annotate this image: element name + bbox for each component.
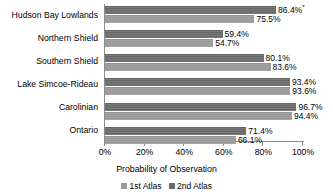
category-axis-labels: Hudson Bay LowlandsNorthern ShieldSouthe… xyxy=(0,4,101,141)
value-annotation: * xyxy=(302,3,304,9)
legend-swatch-icon xyxy=(121,183,127,189)
bar-row: 75.5% xyxy=(105,15,303,23)
bar-value-label: 66.1% xyxy=(236,136,262,145)
tick-label: 0% xyxy=(99,147,112,158)
tick-label: 80% xyxy=(255,147,272,158)
category-label: Ontario xyxy=(0,118,101,141)
bar-row: 71.4% xyxy=(105,127,303,135)
bar-row: 59.4% xyxy=(105,30,303,38)
bar[interactable] xyxy=(105,78,290,86)
bar[interactable] xyxy=(105,136,236,144)
bar[interactable] xyxy=(105,6,276,14)
category-label: Northern Shield xyxy=(0,27,101,50)
axis-title: Probability of Observation xyxy=(0,164,333,175)
bar-row: 93.6% xyxy=(105,87,303,95)
category-label: Hudson Bay Lowlands xyxy=(0,4,101,27)
plot-area: Hudson Bay LowlandsNorthern ShieldSouthe… xyxy=(0,0,333,148)
bar[interactable] xyxy=(105,103,296,111)
bar[interactable] xyxy=(105,112,292,120)
bar-group: 96.7%94.4% xyxy=(105,103,303,126)
chart-legend: 1st Atlas2nd Atlas xyxy=(0,181,333,191)
category-label: Lake Simcoe-Rideau xyxy=(0,72,101,95)
bar-chart: Hudson Bay LowlandsNorthern ShieldSouthe… xyxy=(0,0,333,196)
category-label: Carolinian xyxy=(0,95,101,118)
legend-swatch-icon xyxy=(169,183,175,189)
legend-label: 1st Atlas xyxy=(129,181,161,191)
bar[interactable] xyxy=(105,54,264,62)
bar-value-label: 83.6% xyxy=(271,63,297,72)
bar[interactable] xyxy=(105,15,254,23)
bar-group: 80.1%83.6% xyxy=(105,54,303,77)
bar-value-label: 75.5% xyxy=(254,14,280,23)
bar-value-label: 93.6% xyxy=(290,87,316,96)
tick-label: 40% xyxy=(175,147,192,158)
bar-row: 93.4% xyxy=(105,78,303,86)
bar[interactable] xyxy=(105,39,213,47)
bar-row: 54.7% xyxy=(105,39,303,47)
bar-group: 59.4%54.7% xyxy=(105,30,303,53)
tick-label: 20% xyxy=(136,147,153,158)
legend-entry[interactable]: 2nd Atlas xyxy=(169,181,212,191)
bar-row: 96.7% xyxy=(105,103,303,111)
bar[interactable] xyxy=(105,63,271,71)
bar[interactable] xyxy=(105,127,246,135)
bar-group: 93.4%93.6% xyxy=(105,78,303,101)
bar-row: 66.1% xyxy=(105,136,303,144)
bar-value-label: 54.7% xyxy=(213,38,239,47)
legend-label: 2nd Atlas xyxy=(177,181,212,191)
tick-label: 60% xyxy=(215,147,232,158)
bar-group: 86.4%*75.5% xyxy=(105,6,303,29)
value-axis-tick-labels: 0%20%40%60%80%100% xyxy=(0,147,333,159)
category-label: Southern Shield xyxy=(0,50,101,73)
bar[interactable] xyxy=(105,30,223,38)
bar[interactable] xyxy=(105,87,290,95)
bar-value-label: 94.4% xyxy=(292,111,318,120)
tick-label: 100% xyxy=(292,147,314,158)
bar-row: 94.4% xyxy=(105,112,303,120)
bar-groups: 86.4%*75.5%59.4%54.7%80.1%83.6%93.4%93.6… xyxy=(105,4,303,141)
bar-row: 83.6% xyxy=(105,63,303,71)
legend-entry[interactable]: 1st Atlas xyxy=(121,181,162,191)
